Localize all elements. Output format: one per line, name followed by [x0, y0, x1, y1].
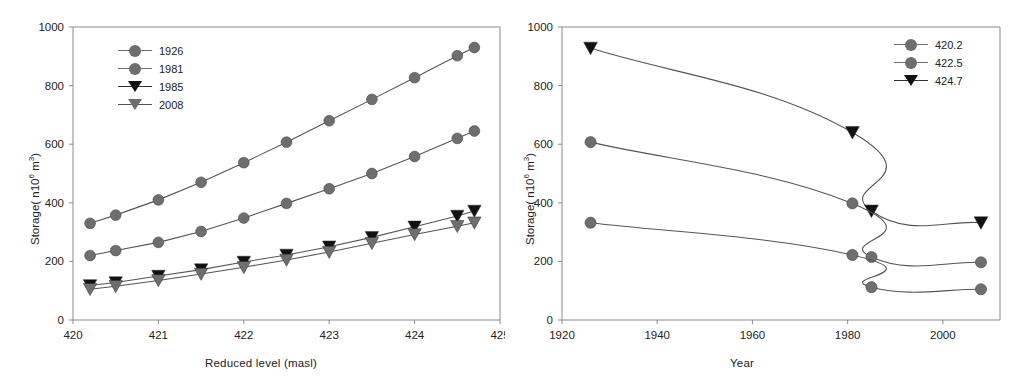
legend-label-2008: 2008 — [159, 99, 183, 111]
left-marker-circle — [452, 133, 463, 144]
left-y-tick-label: 0 — [58, 314, 64, 326]
left-marker-circle — [238, 157, 249, 168]
legend-marker-circle-icon — [118, 62, 152, 76]
left-marker-circle — [110, 245, 121, 256]
legend-item-1985[interactable]: 1985 — [118, 78, 183, 96]
legend-label-422-5: 422.5 — [935, 57, 963, 69]
left-marker-circle — [85, 250, 96, 261]
left-marker-circle — [409, 72, 420, 83]
left-marker-triangle-down — [468, 205, 481, 217]
legend-item-1981[interactable]: 1981 — [118, 60, 183, 78]
right-y-tick-label: 0 — [547, 314, 553, 326]
right-marker-triangle-down — [584, 42, 598, 54]
legend-label-424-7: 424.7 — [935, 75, 963, 87]
legend-marker-triangle-down-icon — [118, 98, 152, 112]
left-y-tick-label: 200 — [45, 255, 64, 267]
left-marker-triangle-down — [83, 283, 96, 295]
left-x-tick-label: 425 — [490, 329, 505, 341]
right-y-tick-label: 600 — [534, 138, 553, 150]
left-x-axis-title: Reduced level (masl) — [205, 357, 317, 369]
left-legend: 1926 1981 1985 — [118, 42, 183, 114]
left-marker-circle — [469, 126, 480, 137]
panel-storage-vs-level: 02004006008001000420421422423424425 Stor… — [0, 0, 505, 392]
right-marker-circle — [585, 137, 596, 148]
left-x-tick-label: 420 — [63, 329, 82, 341]
left-marker-circle — [409, 151, 420, 162]
left-y-tick-label: 600 — [45, 138, 64, 150]
legend-marker-circle-icon — [118, 44, 152, 58]
left-marker-circle — [367, 168, 378, 179]
left-y-tick-label: 800 — [45, 80, 64, 92]
left-marker-triangle-down — [323, 246, 336, 258]
right-y-tick-label: 400 — [534, 197, 553, 209]
right-marker-circle — [847, 249, 858, 260]
right-x-tick-label: 1960 — [740, 329, 766, 341]
right-series-line-422-5 — [591, 142, 981, 266]
left-marker-triangle-down — [451, 220, 464, 232]
right-x-tick-label: 1920 — [549, 329, 575, 341]
left-marker-circle — [196, 226, 207, 237]
right-x-axis-title: Year — [730, 357, 754, 369]
left-marker-triangle-down — [468, 217, 481, 229]
left-marker-circle — [153, 237, 164, 248]
left-marker-circle — [110, 210, 121, 221]
legend-label-420-2: 420.2 — [935, 39, 963, 51]
left-y-axis-title: Storage( n106 m3) — [27, 153, 41, 245]
left-x-tick-label: 423 — [320, 329, 339, 341]
right-series-line-420-2 — [591, 223, 981, 292]
right-y-tick-label: 200 — [534, 255, 553, 267]
legend-item-422-5[interactable]: 422.5 — [894, 54, 963, 72]
left-marker-circle — [324, 115, 335, 126]
legend-item-424-7[interactable]: 424.7 — [894, 72, 963, 90]
left-y-tick-label: 400 — [45, 197, 64, 209]
left-marker-circle — [281, 198, 292, 209]
left-marker-circle — [469, 42, 480, 53]
left-marker-circle — [452, 50, 463, 61]
right-marker-circle — [866, 282, 877, 293]
legend-marker-triangle-down-icon — [118, 80, 152, 94]
left-marker-circle — [367, 94, 378, 105]
left-marker-circle — [85, 218, 96, 229]
left-x-tick-label: 422 — [234, 329, 253, 341]
legend-label-1985: 1985 — [159, 81, 183, 93]
legend-item-1926[interactable]: 1926 — [118, 42, 183, 60]
left-marker-circle — [324, 183, 335, 194]
right-y-tick-label: 800 — [534, 80, 553, 92]
legend-label-1981: 1981 — [159, 63, 183, 75]
right-marker-circle — [585, 217, 596, 228]
legend-marker-triangle-down-icon — [894, 74, 928, 88]
left-y-tick-label: 1000 — [38, 21, 64, 33]
left-marker-circle — [281, 137, 292, 148]
left-x-tick-label: 424 — [405, 329, 425, 341]
right-marker-circle — [975, 257, 986, 268]
legend-item-420-2[interactable]: 420.2 — [894, 36, 963, 54]
right-legend: 420.2 422.5 424.7 — [894, 36, 963, 90]
left-plot-svg: 02004006008001000420421422423424425 — [0, 0, 505, 392]
right-marker-triangle-down — [974, 217, 988, 229]
right-x-tick-label: 1980 — [835, 329, 861, 341]
figure-container: 02004006008001000420421422423424425 Stor… — [0, 0, 1009, 392]
left-marker-triangle-down — [408, 229, 421, 241]
left-marker-circle — [196, 177, 207, 188]
left-marker-circle — [238, 213, 249, 224]
left-marker-circle — [153, 194, 164, 205]
right-x-tick-label: 1940 — [644, 329, 670, 341]
legend-marker-circle-icon — [894, 38, 928, 52]
right-x-tick-label: 2000 — [930, 329, 956, 341]
right-y-tick-label: 1000 — [527, 21, 553, 33]
panel-storage-vs-year: 0200400600800100019201940196019802000 St… — [505, 0, 1009, 392]
left-marker-triangle-down — [365, 237, 378, 249]
legend-item-2008[interactable]: 2008 — [118, 96, 183, 114]
right-marker-circle — [975, 284, 986, 295]
right-marker-circle — [847, 198, 858, 209]
right-y-axis-title: Storage( n106 m3) — [522, 153, 536, 245]
left-x-tick-label: 421 — [149, 329, 168, 341]
legend-marker-circle-icon — [894, 56, 928, 70]
legend-label-1926: 1926 — [159, 45, 183, 57]
right-marker-triangle-down — [846, 127, 860, 139]
